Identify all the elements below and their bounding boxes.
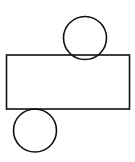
lateral-surface-rectangle: [7, 55, 130, 109]
top-circle-base: [64, 17, 107, 60]
bottom-circle-base: [14, 109, 57, 152]
cylinder-net-diagram: [0, 0, 135, 162]
